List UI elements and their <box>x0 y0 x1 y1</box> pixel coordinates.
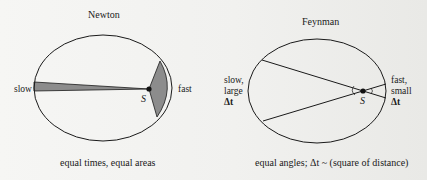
feynman-slow-label-line3: Δt <box>224 97 233 107</box>
feynman-title: Feynman <box>302 17 339 27</box>
newton-title: Newton <box>88 10 120 20</box>
feynman-chord-lower <box>263 84 386 121</box>
newton-fast-label: fast <box>178 84 192 94</box>
feynman-diagram <box>248 39 386 143</box>
newton-diagram <box>34 35 172 141</box>
feynman-fast-label-line3: Δt <box>391 97 400 107</box>
newton-slow-label: slow <box>14 84 32 94</box>
feynman-fast-label-line1: fast, <box>391 75 407 85</box>
feynman-caption: equal angles; Δt ~ (square of distance) <box>255 158 408 168</box>
feynman-sun-dot <box>360 88 365 93</box>
newton-sun-label: S <box>141 94 146 104</box>
feynman-slow-label-line1: slow, <box>224 75 244 85</box>
feynman-chord-upper <box>262 60 386 98</box>
feynman-fast-label-line2: small <box>391 86 412 96</box>
kepler-orbit-diagram: Newton slow fast S equal times, equal ar… <box>0 0 427 180</box>
feynman-sun-label: S <box>360 96 365 106</box>
fast-sector <box>149 61 167 117</box>
feynman-slow-label-line2: large <box>224 86 243 96</box>
newton-sun-dot <box>146 86 151 91</box>
orbit-diagrams-graphic <box>0 0 427 180</box>
newton-caption: equal times, equal areas <box>60 158 156 168</box>
slow-sector <box>34 82 149 91</box>
